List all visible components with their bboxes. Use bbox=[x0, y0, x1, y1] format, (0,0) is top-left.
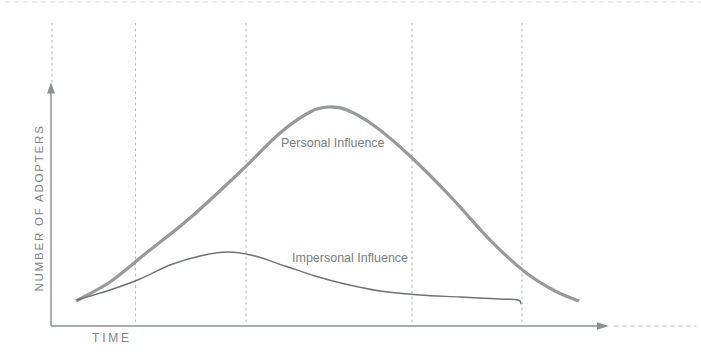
x-axis-arrowhead-icon bbox=[597, 322, 609, 330]
y-axis bbox=[47, 83, 55, 327]
y-axis-title: NUMBER OF ADOPTERS bbox=[33, 124, 45, 291]
chart-canvas bbox=[0, 0, 701, 363]
vertical-gridlines bbox=[52, 23, 522, 325]
x-axis bbox=[51, 322, 697, 330]
y-axis-arrowhead-icon bbox=[47, 83, 55, 94]
impersonal-influence-label: Impersonal Influence bbox=[292, 251, 408, 265]
diffusion-of-innovation-chart: NUMBER OF ADOPTERS TIME Personal Influen… bbox=[0, 0, 701, 363]
x-axis-title: TIME bbox=[92, 331, 132, 345]
personal-influence-label: Personal Influence bbox=[281, 136, 385, 150]
